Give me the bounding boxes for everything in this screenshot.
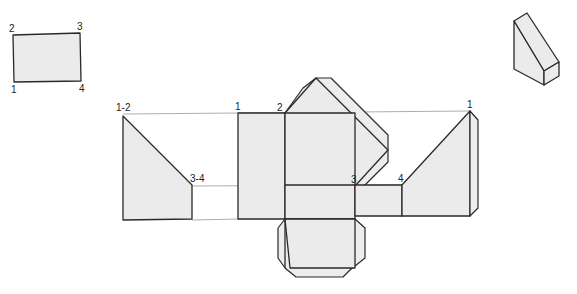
top-view-label-3: 3 (77, 21, 83, 32)
net-label-1-left: 1 (235, 101, 241, 112)
net-label-4: 4 (398, 173, 404, 184)
net-label-1-right: 1 (467, 99, 473, 110)
top-view-label-2: 2 (9, 23, 15, 34)
side-view: 1-2 3-4 (116, 102, 205, 220)
end-face (355, 185, 402, 216)
net: 1 2 3 4 1 (235, 78, 478, 277)
right-side-face (402, 111, 470, 216)
net-label-2: 2 (277, 102, 283, 113)
pictorial-wedge (514, 13, 559, 85)
side-view-label-3-4: 3-4 (190, 173, 205, 184)
top-view: 2 3 1 4 (9, 21, 85, 95)
back-face (238, 113, 285, 219)
top-view-label-1: 1 (11, 84, 17, 95)
net-label-3: 3 (351, 174, 357, 185)
top-view-label-4: 4 (79, 83, 85, 94)
pattern-development-diagram: 2 3 1 4 1-2 3-4 1 2 3 4 (0, 0, 577, 294)
bottom-face (285, 219, 355, 268)
base-face (285, 113, 355, 219)
right-flap (470, 111, 478, 216)
side-view-label-1-2: 1-2 (116, 102, 131, 113)
